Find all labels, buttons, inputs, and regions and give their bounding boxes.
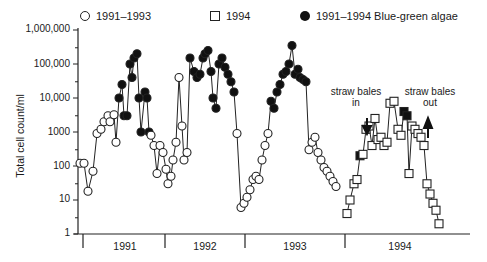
data-point	[302, 78, 310, 86]
data-point	[405, 170, 413, 178]
y-tick-label: 1,000,000	[0, 23, 70, 34]
data-point	[183, 148, 191, 156]
data-point	[209, 94, 217, 102]
data-point	[80, 159, 88, 167]
series-line	[347, 101, 439, 224]
x-label-1993: 1993	[270, 240, 320, 252]
x-label-1992: 1992	[180, 240, 230, 252]
data-point	[167, 172, 175, 180]
y-tick-label: 100	[0, 160, 70, 171]
data-point	[273, 88, 281, 96]
data-point	[288, 42, 296, 50]
data-point	[84, 187, 92, 195]
data-point	[169, 156, 177, 164]
data-point	[332, 182, 340, 190]
annotation-bales-out: straw bales out	[402, 86, 458, 108]
data-point	[233, 130, 241, 138]
data-point	[147, 131, 155, 139]
data-point	[264, 130, 272, 138]
annotation-text: out	[402, 97, 458, 108]
y-tick-label: 1000	[0, 126, 70, 137]
x-label-1991: 1991	[100, 240, 150, 252]
y-ticks	[73, 30, 78, 234]
data-point	[282, 68, 290, 76]
data-point	[112, 138, 120, 146]
filled-circle-icon	[300, 11, 310, 21]
x-label-1994: 1994	[375, 240, 425, 252]
data-point	[353, 176, 361, 184]
data-point	[432, 206, 440, 214]
y-tick-label: 10	[0, 193, 70, 204]
data-point	[294, 65, 302, 73]
data-point	[204, 46, 212, 54]
annotation-text: straw bales	[328, 86, 384, 97]
data-point	[118, 80, 126, 88]
data-point	[178, 122, 186, 130]
data-point	[246, 186, 254, 194]
open-circle-icon	[80, 11, 90, 21]
data-point	[207, 68, 215, 76]
data-point	[218, 54, 226, 62]
data-point	[180, 156, 188, 164]
data-point	[305, 146, 313, 154]
data-point	[255, 176, 263, 184]
data-point	[317, 156, 325, 164]
data-point	[314, 148, 322, 156]
data-point	[212, 104, 220, 112]
data-point	[285, 60, 293, 68]
y-tick-label: 1	[0, 227, 70, 238]
legend-item-1994: 1994	[210, 10, 250, 22]
annotation-text: straw bales	[402, 86, 458, 97]
chart-canvas	[0, 0, 487, 262]
data-point	[137, 128, 145, 136]
data-point	[383, 138, 391, 146]
y-tick-label: 100,000	[0, 58, 70, 69]
annotation-bales-in: straw bales in	[328, 86, 384, 108]
data-point	[224, 70, 232, 78]
data-point	[417, 133, 425, 141]
legend-item-1991-1993: 1991–1993	[80, 10, 151, 22]
data-point	[343, 210, 351, 218]
data-point	[143, 94, 151, 102]
data-point	[227, 78, 235, 86]
data-point	[164, 180, 172, 188]
data-point	[261, 142, 269, 150]
data-point	[230, 88, 238, 96]
data-point	[390, 97, 398, 105]
data-point	[311, 133, 319, 141]
legend-label: 1994	[226, 10, 250, 22]
data-point	[276, 80, 284, 88]
data-point	[270, 104, 278, 112]
legend-label: 1991–1993	[96, 10, 151, 22]
data-point	[435, 220, 443, 228]
open-square-icon	[210, 11, 220, 21]
data-point	[403, 112, 411, 120]
y-tick-label: 10,000	[0, 92, 70, 103]
data-point	[420, 142, 428, 150]
data-point	[258, 156, 266, 164]
data-point	[159, 148, 167, 156]
data-point	[175, 74, 183, 82]
data-point	[162, 165, 170, 173]
data-point	[115, 94, 123, 102]
data-point	[397, 131, 405, 139]
data-point	[89, 167, 97, 175]
data-point	[371, 114, 379, 122]
data-point	[243, 193, 251, 201]
data-point	[123, 112, 131, 120]
data-point	[346, 196, 354, 204]
data-point	[423, 180, 431, 188]
data-point	[172, 138, 180, 146]
legend-item-blue-green-algae: 1991–1994 Blue-green algae	[300, 10, 458, 22]
data-point	[133, 50, 141, 58]
data-point	[196, 70, 204, 78]
data-point	[186, 54, 194, 62]
data-point	[128, 74, 136, 82]
data-point	[359, 150, 367, 158]
legend-label: 1991–1994 Blue-green algae	[316, 10, 458, 22]
data-point	[110, 111, 118, 119]
data-point	[153, 170, 161, 178]
data-point	[426, 190, 434, 198]
chart-legend: 1991–1993 1994 1991–1994 Blue-green alga…	[0, 10, 487, 26]
annotation-text: in	[328, 97, 384, 108]
